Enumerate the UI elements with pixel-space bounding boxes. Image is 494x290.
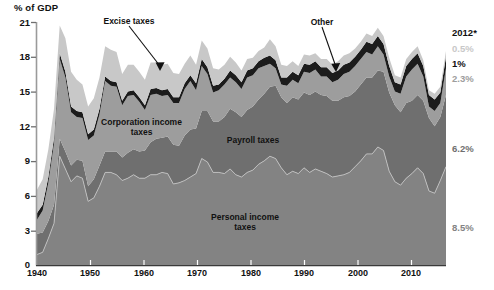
y-tick-18: 18 [4,51,30,62]
y-tick-3: 3 [4,225,30,236]
x-tick-1950: 1950 [70,268,110,278]
annotation-corporation-income-taxes-line2: taxes [89,127,194,137]
y-tick-12: 12 [4,121,30,132]
x-tick-1960: 1960 [124,268,164,278]
y-tick-9: 9 [4,155,30,166]
x-tick-1980: 1980 [231,268,271,278]
annotation-personal-income-taxes-line1: Personal income [190,212,300,222]
right-value-payroll: 6.2% [452,143,474,154]
chart-root: % of GDP 21 18 15 12 9 6 3 0 1940 1950 1… [0,0,494,290]
x-tick-1940: 1940 [17,268,57,278]
annotation-payroll-taxes: Payroll taxes [208,135,298,145]
annotation-excise-taxes: Excise taxes [76,16,182,26]
right-value-personal: 8.5% [452,222,474,233]
y-axis-title: % of GDP [14,2,58,13]
right-value-other: 1% [452,58,466,69]
annotation-other: Other [297,17,347,27]
x-tick-2000: 2000 [338,268,378,278]
y-tick-15: 15 [4,86,30,97]
annotation-personal-income-taxes-line2: taxes [190,222,300,232]
x-tick-1970: 1970 [177,268,217,278]
annotation-corporation-income-taxes-line1: Corporation income [89,117,194,127]
y-tick-21: 21 [4,17,30,28]
y-tick-6: 6 [4,190,30,201]
x-tick-2010: 2010 [391,268,431,278]
x-tick-1990: 1990 [284,268,324,278]
right-value-corporation: 2.3% [452,73,474,84]
right-column-header: 2012* [452,27,477,38]
right-value-excise: 0.5% [452,43,474,54]
